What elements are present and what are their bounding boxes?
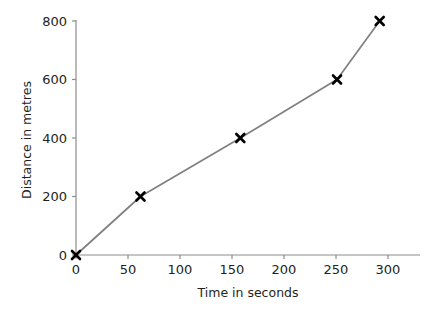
chart-background xyxy=(0,0,437,317)
x-tick-label: 100 xyxy=(168,262,193,277)
x-tick-label: 0 xyxy=(72,262,80,277)
x-tick-label: 50 xyxy=(120,262,137,277)
x-tick-label: 300 xyxy=(376,262,401,277)
x-tick-label: 250 xyxy=(324,262,349,277)
x-axis-title: Time in seconds xyxy=(196,285,298,300)
line-chart: 0200400600800 050100150200250300 Time in… xyxy=(0,0,437,317)
y-tick-label: 200 xyxy=(42,189,67,204)
y-tick-label: 600 xyxy=(42,72,67,87)
y-tick-label: 400 xyxy=(42,131,67,146)
y-axis-title: Distance in metres xyxy=(19,81,34,199)
y-tick-label: 800 xyxy=(42,14,67,29)
x-tick-label: 200 xyxy=(272,262,297,277)
chart-canvas: 0200400600800 050100150200250300 Time in… xyxy=(0,0,437,317)
x-tick-label: 150 xyxy=(220,262,245,277)
y-tick-label: 0 xyxy=(59,248,67,263)
